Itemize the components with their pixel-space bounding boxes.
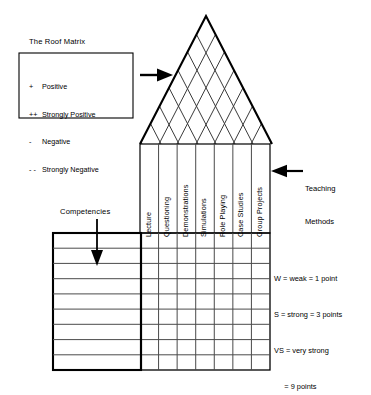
matrix-body[interactable]: [53, 233, 270, 370]
column-header-questioning[interactable]: Questioning: [162, 197, 171, 237]
column-header-lecture[interactable]: Lecture: [144, 212, 153, 237]
scoring-legend: W = weak = 1 point S = strong = 3 points…: [274, 258, 342, 395]
column-header-case-studies[interactable]: Case Studies: [236, 192, 245, 237]
teaching-methods-label-line1: Teaching: [305, 183, 335, 194]
teaching-methods-arrow: [271, 165, 303, 177]
roof-matrix-title: The Roof Matrix: [29, 38, 85, 47]
competencies-arrow: [91, 219, 103, 266]
column-header-simulations[interactable]: Simulations: [199, 198, 208, 237]
column-header-demonstrations[interactable]: Demonstrations: [181, 185, 190, 238]
scoring-legend-very-strong-points: = 9 points: [274, 383, 342, 392]
roof-lattice: [76, 16, 336, 144]
scoring-legend-strong: S = strong = 3 points: [274, 311, 342, 320]
column-header-group-projects[interactable]: Group Projects: [255, 187, 264, 237]
legend-item-strongly-positive: ++ Strongly Positive: [29, 111, 99, 122]
legend-item-negative: - Negative: [29, 138, 99, 149]
legend-item-positive: + Positive: [29, 83, 99, 94]
legend-label-positive: Positive: [42, 83, 67, 91]
legend-symbol-negative: -: [29, 138, 42, 146]
competencies-label: Competencies: [60, 208, 110, 217]
roof-legend-list: + Positive ++ Strongly Positive - Negati…: [29, 66, 99, 193]
teaching-methods-label-line2: Methods: [305, 216, 335, 227]
legend-label-negative: Negative: [42, 138, 70, 146]
scoring-legend-very-strong: VS = very strong: [274, 347, 342, 356]
legend-to-roof-arrow: [140, 69, 173, 82]
roof-matrix[interactable]: [76, 16, 336, 144]
legend-label-strongly-negative: Strongly Negative: [42, 166, 99, 174]
legend-symbol-strongly-negative: - -: [29, 166, 42, 174]
legend-label-strongly-positive: Strongly Positive: [42, 111, 96, 119]
legend-symbol-positive: +: [29, 83, 42, 91]
teaching-methods-label: Teaching Methods: [305, 161, 335, 249]
legend-symbol-strongly-positive: ++: [29, 111, 42, 119]
legend-item-strongly-negative: - - Strongly Negative: [29, 166, 99, 177]
scoring-legend-weak: W = weak = 1 point: [274, 275, 342, 284]
column-header-role-playing[interactable]: Role Playing: [218, 195, 227, 237]
